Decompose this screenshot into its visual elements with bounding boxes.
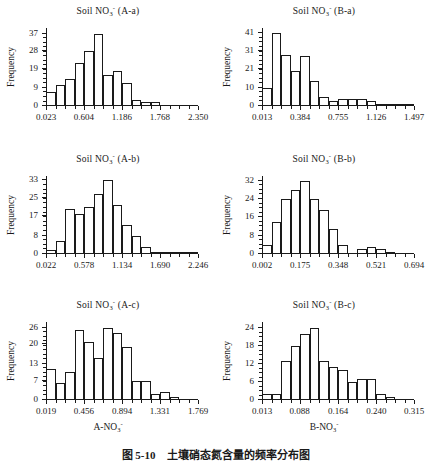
y-tick-label: 28 [29, 45, 38, 55]
x-tick-label: 0.164 [328, 406, 348, 416]
y-tick-minor [43, 78, 46, 79]
x-tick-minor [151, 254, 152, 257]
x-tick-label: 0.694 [404, 260, 424, 270]
y-tick-major: 26 [42, 327, 47, 328]
y-tick-minor [259, 60, 262, 61]
histogram-bar [281, 361, 291, 400]
y-tick-minor [43, 73, 46, 74]
y-tick-minor [43, 244, 46, 245]
y-tick-minor [43, 358, 46, 359]
y-tick-label: 0 [34, 248, 39, 258]
y-tick-label: 0 [34, 100, 39, 110]
x-tick-minor [65, 400, 66, 403]
panel-title-a-b: Soil NO3- (A-b) [0, 152, 216, 165]
histogram-bar [189, 252, 199, 254]
x-tick-minor [319, 400, 320, 403]
x-tick-minor [395, 106, 396, 109]
x-tick-major [160, 254, 161, 258]
x-tick-major [262, 254, 263, 258]
x-tick-minor [291, 106, 292, 109]
x-tick-minor [189, 254, 190, 257]
y-axis-line [262, 176, 263, 254]
x-tick-major [46, 400, 47, 404]
y-tick-label: 0 [34, 394, 39, 404]
x-tick-minor [395, 400, 396, 403]
x-tick-label: 0.019 [36, 406, 56, 416]
histogram-bar [65, 372, 75, 400]
x-tick-minor [94, 254, 95, 257]
panel-title-b-b: Soil NO3- (B-b) [216, 152, 432, 165]
y-tick-label: 24 [245, 193, 254, 203]
histogram-bar [300, 181, 310, 254]
histogram-bar [367, 379, 377, 400]
histogram-bar [338, 99, 348, 106]
y-tick-major: 18 [258, 345, 263, 346]
x-tick-label: 0.521 [366, 260, 386, 270]
x-tick-major [46, 254, 47, 258]
histogram-bar [151, 102, 161, 106]
x-tick-major [46, 106, 47, 110]
histogram-bar [319, 97, 329, 106]
histogram-bar [132, 381, 142, 401]
x-tick-label: 0.175 [290, 260, 310, 270]
y-tick-minor [259, 69, 262, 70]
y-tick-major: 13 [42, 363, 47, 364]
histogram-bar [291, 190, 301, 254]
y-tick-major: 12 [258, 363, 263, 364]
y-tick-minor [43, 225, 46, 226]
x-tick-major [122, 106, 123, 110]
x-tick-label: 0.456 [74, 406, 94, 416]
histogram-bar [46, 250, 56, 254]
x-tick-major [84, 106, 85, 110]
y-tick-minor [259, 189, 262, 190]
histogram-bar [405, 104, 415, 106]
y-tick-major: 24 [258, 327, 263, 328]
plot-area: 0102131410.0130.3840.7551.1261.497 [262, 28, 414, 106]
y-tick-label: 17 [29, 210, 38, 220]
y-tick-minor [43, 189, 46, 190]
histogram-bar [357, 379, 367, 400]
y-tick-minor [43, 42, 46, 43]
y-axis-title: Frequency [221, 28, 233, 106]
x-tick-minor [56, 400, 57, 403]
x-tick-minor [179, 106, 180, 109]
x-tick-label: 2.350 [188, 112, 208, 122]
x-tick-minor [75, 106, 76, 109]
histogram-bar [113, 333, 123, 400]
x-tick-minor [103, 106, 104, 109]
y-tick-minor [43, 239, 46, 240]
x-tick-minor [179, 254, 180, 257]
y-tick-minor [259, 350, 262, 351]
y-tick-minor [43, 216, 46, 217]
y-tick-minor [259, 368, 262, 369]
histogram-bar [367, 247, 377, 254]
x-tick-minor [141, 254, 142, 257]
y-tick-minor [43, 69, 46, 70]
histogram-panel-a-c: Soil NO3- (A-c)Frequency071320260.0190.4… [0, 296, 216, 442]
histogram-bar [113, 71, 123, 106]
x-tick-minor [281, 254, 282, 257]
y-tick-minor [43, 336, 46, 337]
y-tick-major: 32 [258, 180, 263, 181]
histogram-bar [141, 102, 151, 106]
histogram-bar [300, 334, 310, 400]
x-tick-label: 2.246 [188, 260, 208, 270]
x-tick-minor [113, 254, 114, 257]
panel-title-a-a: Soil NO3- (A-a) [0, 4, 216, 17]
histogram-bar [122, 83, 132, 106]
y-tick-label: 24 [245, 322, 254, 332]
x-tick-minor [310, 400, 311, 403]
y-axis-title: Frequency [5, 28, 17, 106]
y-tick-minor [259, 230, 262, 231]
y-tick-label: 18 [245, 340, 254, 350]
x-tick-label: 1.331 [150, 406, 170, 416]
x-tick-label: 1.497 [404, 112, 424, 122]
y-tick-major: 16 [258, 216, 263, 217]
y-axis-title: Frequency [221, 176, 233, 254]
x-tick-minor [329, 254, 330, 257]
x-tick-label: 0.604 [74, 112, 94, 122]
y-tick-minor [259, 341, 262, 342]
histogram-bar [386, 104, 396, 106]
y-tick-minor [259, 193, 262, 194]
y-tick-minor [259, 41, 262, 42]
